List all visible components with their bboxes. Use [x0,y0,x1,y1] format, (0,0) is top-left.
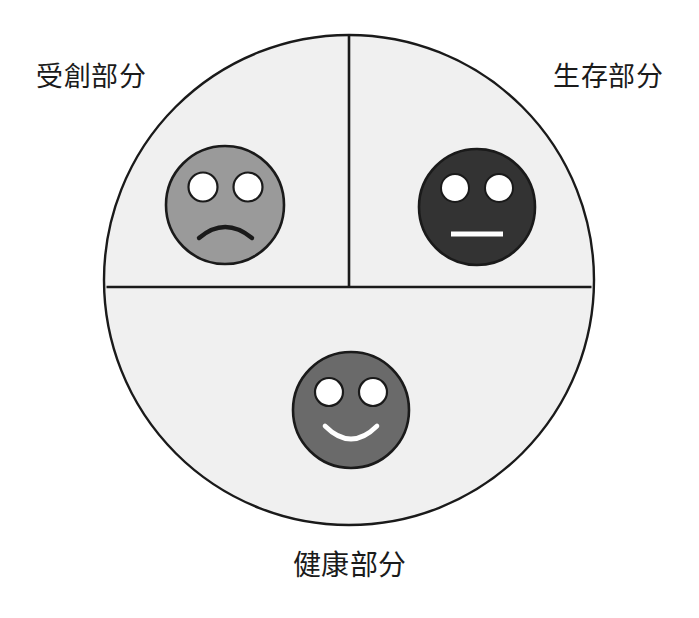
sad-face-right-eye [234,173,263,202]
label-wounded-part: 受創部分 [36,63,146,90]
happy-face [293,352,409,468]
neutral-face-right-eye [485,174,513,202]
label-survival-part: 生存部分 [553,63,663,90]
neutral-face-head [419,149,535,265]
happy-face-left-eye [315,378,343,406]
neutral-face-left-eye [441,174,469,202]
sad-face-head [166,146,284,264]
diagram-canvas: 受創部分 生存部分 健康部分 [0,0,699,618]
happy-face-head [293,352,409,468]
happy-face-right-eye [359,378,387,406]
neutral-face [419,149,535,265]
sad-face [166,146,284,264]
label-healthy-part: 健康部分 [293,552,407,580]
quadrant-circle-diagram [0,0,699,618]
sad-face-left-eye [189,173,218,202]
